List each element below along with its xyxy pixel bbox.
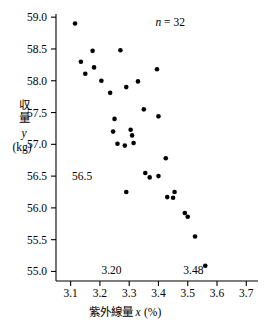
data-point (165, 195, 170, 200)
x-tick-label: 3.4 (151, 287, 166, 299)
y-axis-title-variable: y (20, 127, 27, 140)
data-point (203, 263, 208, 268)
data-point (90, 49, 95, 54)
x-axis-title-variable: x (134, 306, 141, 318)
y-axis-title-char1: 収 (19, 99, 31, 111)
data-point (142, 107, 147, 112)
data-point (79, 59, 84, 64)
x-tick-label: 3.1 (63, 287, 78, 299)
y-tick-label: 55.0 (27, 265, 47, 277)
data-point (143, 171, 148, 176)
data-point (163, 156, 168, 161)
y-tick-label: 56.5 (27, 170, 47, 182)
y-tick-label: 58.0 (27, 75, 47, 87)
annotation-y-reference-56-5: 56.5 (72, 170, 92, 182)
y-axis-title-unit: (kg) (12, 141, 31, 154)
data-point (83, 71, 88, 76)
chart-canvas: 55.055.556.056.557.057.558.058.559.0 3.1… (0, 0, 265, 323)
data-point (124, 190, 129, 195)
scatter-plot-figure: 55.055.556.056.557.057.558.058.559.0 3.1… (0, 0, 265, 323)
data-point (131, 141, 136, 146)
data-point (124, 85, 129, 90)
data-point (73, 21, 78, 26)
data-point (193, 234, 198, 239)
data-point (156, 174, 161, 179)
data-point (111, 129, 116, 134)
data-point (115, 141, 120, 146)
y-tick-label: 58.5 (27, 43, 47, 55)
data-point (130, 133, 135, 138)
data-point (171, 195, 176, 200)
x-axis-title-unit: (%) (144, 306, 161, 319)
y-axis-title: 収 量 y (kg) (12, 99, 31, 154)
data-point (99, 78, 104, 83)
y-tick-label: 56.0 (27, 202, 47, 214)
y-tick-label: 59.0 (27, 11, 47, 23)
data-point (118, 48, 123, 53)
x-axis-title-text: 紫外線量 (89, 305, 133, 318)
data-point (128, 127, 133, 132)
data-point (156, 114, 161, 119)
annotation-sample-size: n = 32 (155, 16, 185, 28)
data-point (147, 175, 152, 180)
x-axis-title: 紫外線量 x (%) (89, 305, 161, 319)
annotation-group: n = 3256.53.203.48 (72, 16, 204, 276)
x-tick-label: 3.7 (239, 287, 254, 299)
data-point-group (73, 21, 208, 268)
data-point (108, 91, 113, 96)
y-tick-label: 55.5 (27, 234, 47, 246)
data-point (122, 143, 127, 148)
x-tick-label: 3.5 (181, 287, 196, 299)
y-axis-ticks (51, 17, 56, 271)
x-tick-label: 3.3 (122, 287, 137, 299)
annotation-x-reference-3-20: 3.20 (101, 264, 121, 276)
data-point (183, 211, 188, 216)
data-point (136, 79, 141, 84)
data-point (155, 67, 160, 72)
x-tick-label: 3.6 (210, 287, 225, 299)
annotation-x-reference-3-48: 3.48 (183, 264, 203, 276)
x-axis-tick-labels: 3.13.23.33.43.53.63.7 (63, 287, 253, 299)
data-point (92, 65, 97, 70)
x-tick-label: 3.2 (93, 287, 108, 299)
data-point (172, 190, 177, 195)
data-point (112, 117, 117, 122)
x-axis: 3.13.23.33.43.53.63.7 (56, 281, 258, 299)
y-tick-label: 57.5 (27, 107, 47, 119)
data-point (185, 214, 190, 219)
y-axis-title-char2: 量 (19, 112, 30, 124)
x-axis-ticks (71, 281, 247, 286)
